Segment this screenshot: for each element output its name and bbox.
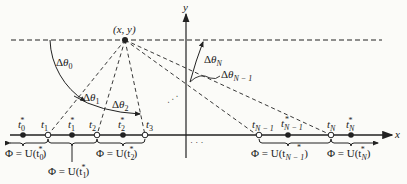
node-t1 [45,132,51,138]
node-t2-star [120,132,126,138]
node-t3 [142,132,148,138]
brace-1 [48,139,97,146]
diagram-canvas: y x (x, y) Δθ0 Δθ1 Δθ2 · · · · · · ΔθN Δ… [0,0,407,184]
interval-N: Φ = U(tN*) [327,145,371,162]
node-tN [328,132,334,138]
y-axis-label: y [182,1,188,13]
label-tN-star: tN* [346,116,355,133]
label-t3: t3 [146,118,153,133]
label-t1: t1 [41,118,48,133]
label-t2: t2 [89,118,96,133]
label-t1-star: t1* [68,116,75,133]
interval-labels: Φ = U(t0*) Φ = U(t1*) Φ = U(t2*) Φ = U(t… [5,143,371,180]
label-t0-star: t0* [18,116,25,133]
label-tNm1: tN − 1 [252,118,274,133]
label-tN: tN [327,118,336,133]
node-tNm1 [256,132,262,138]
interval-2: Φ = U(t2*) [96,145,137,162]
brace-N [331,139,378,146]
interval-0: Φ = U(t0*) [5,145,46,162]
axis-ellipsis: · · · [190,137,204,147]
node-t2 [94,132,100,138]
brace-2 [97,139,145,146]
dtheta1-label: Δθ1 [83,91,99,106]
brace-Nm1 [259,139,331,146]
node-tNm1-star [285,132,291,138]
node-tN-star [348,132,354,138]
star-tNm1: * [285,115,289,124]
point-xy-label: (x, y) [113,23,136,36]
interval-1: Φ = U(t1*) [48,163,89,180]
point-xy [122,37,128,43]
star-Nm1: * [297,143,301,152]
dthetaN-label: ΔθN [204,53,222,68]
dthetaNm1-leader [190,76,220,82]
fan-ellipsis: · · · [164,91,181,107]
node-t0-star [20,132,26,138]
label-t2-star: t2* [118,116,125,133]
x-axis-label: x [394,128,400,140]
dthetaNm1-label: ΔθN − 1 [221,68,252,83]
node-t1-star [69,132,75,138]
dtheta0-label: Δθ0 [56,56,72,71]
